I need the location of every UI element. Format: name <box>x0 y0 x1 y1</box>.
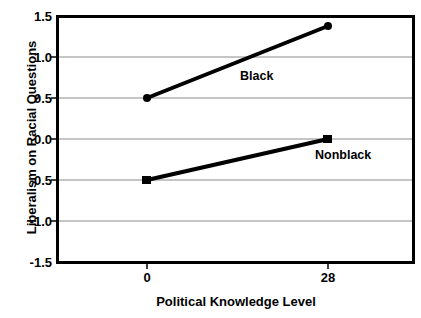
series-line-black <box>147 26 328 98</box>
data-point-black-0 <box>143 94 151 102</box>
series-annotation-nonblack: Nonblack <box>315 148 371 162</box>
gridlines <box>58 57 413 221</box>
x-tick-label: 28 <box>308 271 348 284</box>
series-line-nonblack <box>147 139 328 180</box>
data-point-black-1 <box>324 22 332 30</box>
x-tick-label: 0 <box>127 271 167 284</box>
x-axis-label: Political Knowledge Level <box>57 294 415 309</box>
chart-figure: Liberalism on Racial Questions 1.5 1.0 0… <box>0 0 421 318</box>
data-point-nonblack-0 <box>142 176 151 184</box>
series-annotation-black: Black <box>240 69 273 83</box>
data-point-nonblack-1 <box>323 135 332 143</box>
